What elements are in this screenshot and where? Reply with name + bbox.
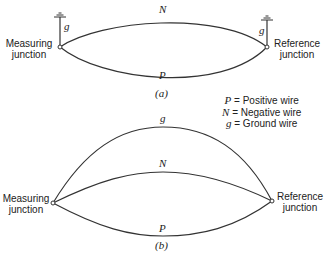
ground-label-left: g <box>64 21 70 32</box>
ground-icon-left <box>54 13 66 17</box>
wire-p-label-a: P <box>159 70 166 81</box>
legend-item-positive: P = Positive wire <box>222 95 301 107</box>
diagram-b-wires <box>53 127 272 236</box>
reference-junction-line2: junction <box>269 49 325 60</box>
legend: P = Positive wire N = Negative wire g = … <box>222 95 301 130</box>
measuring-junction-line1: Measuring <box>0 193 52 204</box>
wire-n-label-a: N <box>159 4 166 15</box>
wire-n-label-b: N <box>159 158 166 169</box>
wire-n-a <box>60 23 267 47</box>
junction-node-a-left <box>58 45 62 49</box>
legend-item-ground: g = Ground wire <box>222 118 301 130</box>
reference-junction-label-b: Reference junction <box>274 191 326 213</box>
measuring-junction-line1: Measuring <box>0 38 58 49</box>
wire-p-label-b: P <box>159 223 166 234</box>
reference-junction-line1: Reference <box>274 191 326 202</box>
ground-label-right: g <box>259 25 265 36</box>
measuring-junction-line2: junction <box>0 49 58 60</box>
figure-caption-cropped <box>0 254 326 259</box>
reference-junction-line1: Reference <box>269 38 325 49</box>
reference-junction-line2: junction <box>274 202 326 213</box>
thermocouple-wiring-diagram: N g g Measuring junction Reference junct… <box>0 0 326 259</box>
wire-n-b <box>53 172 272 203</box>
measuring-junction-line2: junction <box>0 204 52 215</box>
diagram-a-caption: (a) <box>155 88 168 99</box>
diagram-b-caption: (b) <box>155 240 168 251</box>
measuring-junction-label-a: Measuring junction <box>0 38 58 60</box>
measuring-junction-label-b: Measuring junction <box>0 193 52 215</box>
legend-item-negative: N = Negative wire <box>222 107 301 119</box>
ground-icon-right <box>261 16 273 20</box>
reference-junction-label-a: Reference junction <box>269 38 325 60</box>
wire-g-label-b: g <box>160 113 166 124</box>
